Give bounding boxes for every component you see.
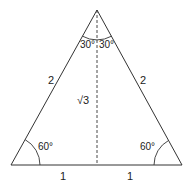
apex-left-angle-label: 30° [80,39,95,50]
base-right-label: 1 [127,170,133,182]
base-right-angle-label: 60° [140,141,155,152]
apex-right-angle-label: 30° [99,39,114,50]
altitude-label: √3 [77,94,89,106]
base-right-angle-arc [154,141,169,166]
left-side [11,10,97,165]
triangle-diagram: 30° 30° 2 2 √3 60° 60° 1 1 [0,0,196,187]
base-left-angle-label: 60° [38,141,53,152]
right-side-label: 2 [140,74,146,86]
base-left-label: 1 [60,170,66,182]
left-side-label: 2 [48,74,54,86]
